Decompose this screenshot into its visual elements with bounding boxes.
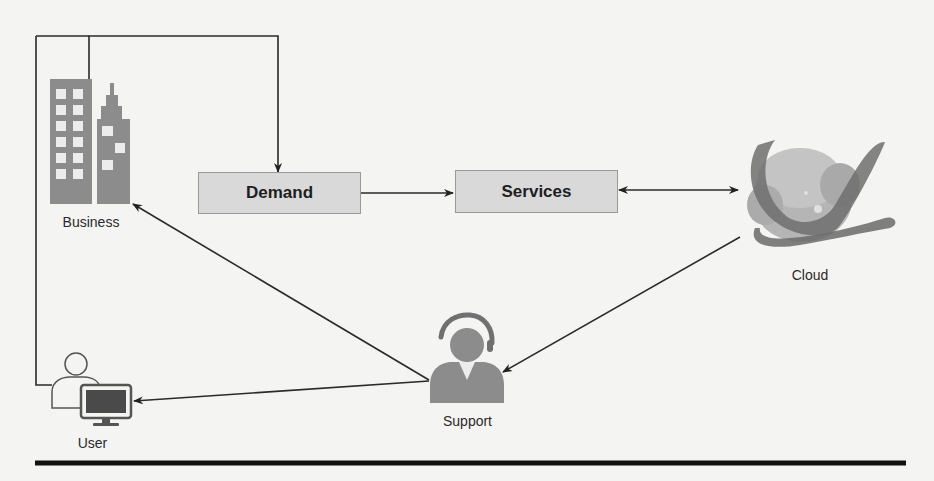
services-label: Services	[502, 182, 572, 202]
business-label: Business	[56, 214, 126, 230]
edge-support-to-business	[133, 204, 429, 380]
demand-label: Demand	[246, 183, 313, 203]
user-computer-icon	[52, 353, 131, 426]
service-flow-diagram: Business Demand Services Cloud Support U…	[0, 0, 934, 481]
user-label: User	[70, 435, 115, 451]
support-label: Support	[430, 413, 505, 429]
buildings-icon	[50, 79, 130, 204]
services-node: Services	[455, 170, 618, 213]
cloud-label: Cloud	[780, 267, 840, 283]
connectors-layer	[0, 0, 934, 481]
cloud-globe-icon	[747, 140, 895, 247]
edge-support-to-user	[134, 381, 429, 401]
edge-cloud-to-support	[503, 237, 740, 372]
headset-agent-icon	[430, 315, 504, 403]
demand-node: Demand	[198, 172, 361, 214]
